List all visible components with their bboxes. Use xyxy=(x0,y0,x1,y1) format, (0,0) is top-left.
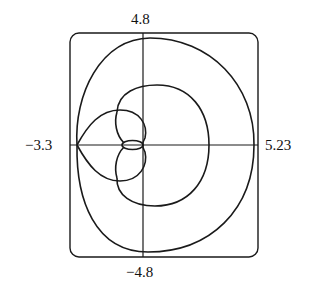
y-max-label: 4.8 xyxy=(131,12,150,27)
y-min-label: −4.8 xyxy=(126,265,153,280)
x-min-label: −3.3 xyxy=(25,138,52,153)
x-max-label: 5.23 xyxy=(265,138,291,153)
